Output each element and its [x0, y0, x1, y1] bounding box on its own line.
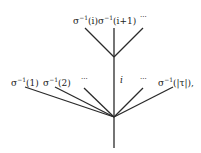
- lower-label-ellipsis-left: ···: [81, 74, 88, 84]
- lower-label-sigma-inv-2: σ−1(2): [43, 75, 71, 88]
- lower-label-sigma-inv-1: σ−1(1): [11, 75, 39, 88]
- lower-label-ellipsis-right: ···: [140, 74, 147, 84]
- lower-label-i: i: [120, 75, 123, 85]
- upper-label-sigma-inv-i: σ−1(i): [73, 13, 98, 26]
- upper-label-sigma-inv-i-plus-1: σ−1(i+1): [98, 13, 136, 26]
- lower-branch-4: [114, 88, 143, 117]
- lower-label-sigma-inv-tau: σ−1(|τ|),: [158, 75, 194, 88]
- lower-branch-2: [55, 87, 114, 117]
- lower-branch-5: [114, 87, 173, 117]
- upper-label-ellipsis: ···: [140, 12, 147, 22]
- upper-branch-left: [85, 28, 114, 57]
- lower-branch-3: [84, 88, 114, 117]
- lower-branch-1: [25, 87, 114, 117]
- upper-branch-right: [114, 28, 143, 57]
